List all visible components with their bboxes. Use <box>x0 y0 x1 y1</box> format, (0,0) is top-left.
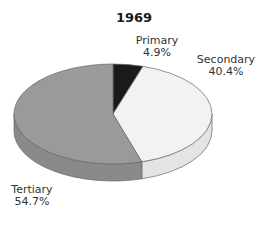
slice-value-secondary: 40.4% <box>209 65 244 78</box>
pie-slices <box>14 64 212 164</box>
pie-chart: 1969 Primary 4.9% Secondary 40.4% Tertia… <box>0 0 269 227</box>
label-secondary: Secondary 40.4% <box>197 53 256 78</box>
label-tertiary: Tertiary 54.7% <box>10 183 53 208</box>
chart-title: 1969 <box>116 10 152 25</box>
slice-value-primary: 4.9% <box>143 46 171 59</box>
label-primary: Primary 4.9% <box>136 34 179 59</box>
slice-value-tertiary: 54.7% <box>15 195 50 208</box>
